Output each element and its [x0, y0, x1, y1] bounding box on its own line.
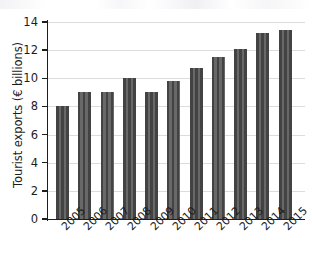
y-tick-label: 4	[0, 156, 38, 170]
y-tick-mark	[42, 106, 48, 107]
y-tick-label: 6	[0, 128, 38, 142]
y-tick-mark	[42, 190, 48, 191]
y-tick-label: 8	[0, 99, 38, 113]
y-tick-label: 0	[0, 212, 38, 226]
y-tick-mark	[42, 218, 48, 219]
y-tick-mark	[42, 162, 48, 163]
bar-2014[interactable]	[256, 33, 269, 219]
chart-figure: Tourist exports (€ billions) 02468101214…	[0, 0, 312, 266]
y-tick-mark	[42, 49, 48, 50]
bar-2005[interactable]	[56, 106, 69, 219]
y-tick-label: 10	[0, 71, 38, 85]
y-tick-mark	[42, 134, 48, 135]
y-tick-mark	[42, 78, 48, 79]
scan-artifact	[0, 0, 312, 9]
plot-area	[48, 22, 305, 219]
y-tick-label: 12	[0, 43, 38, 57]
gridline	[48, 22, 305, 23]
y-tick-label: 14	[0, 15, 38, 29]
y-tick-label: 2	[0, 184, 38, 198]
y-tick-mark	[42, 21, 48, 22]
bar-2015[interactable]	[279, 30, 292, 219]
